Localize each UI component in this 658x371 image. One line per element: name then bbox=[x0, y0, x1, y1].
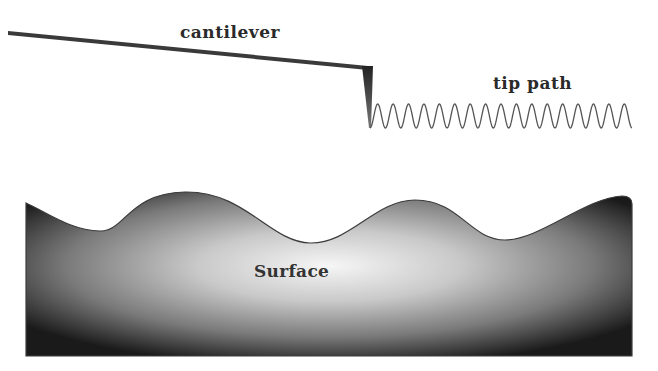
cantilever-tip bbox=[362, 66, 373, 128]
afm-diagram: cantilever tip path Surface bbox=[0, 0, 658, 371]
tip-path-label: tip path bbox=[493, 73, 572, 93]
diagram-canvas bbox=[0, 0, 658, 371]
cantilever-label: cantilever bbox=[180, 22, 280, 42]
tip-path-wave bbox=[370, 104, 632, 128]
surface-label: Surface bbox=[254, 261, 329, 281]
